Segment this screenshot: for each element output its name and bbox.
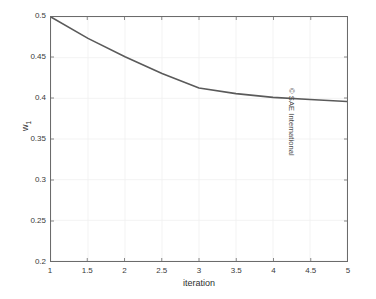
y-axis-label: w1 <box>20 106 32 146</box>
x-tick-label: 2 <box>122 267 126 275</box>
y-tick-label: 0.4 <box>14 94 46 102</box>
x-tick-label: 4 <box>271 267 275 275</box>
y-axis-label-text: w <box>20 124 30 131</box>
x-tick-label: 4.5 <box>305 267 316 275</box>
x-axis-label: iteration <box>50 278 348 288</box>
y-tick-label: 0.2 <box>14 258 46 266</box>
y-tick-label: 0.25 <box>14 217 46 225</box>
y-axis-label-subscript: 1 <box>25 121 32 125</box>
x-tick-label: 5 <box>346 267 350 275</box>
x-tick-label: 1 <box>48 267 52 275</box>
copyright-notice: © SAE International <box>287 88 296 218</box>
y-tick-label: 0.5 <box>14 12 46 20</box>
x-tick-label: 3 <box>197 267 201 275</box>
y-tick-label: 0.3 <box>14 176 46 184</box>
chart-figure: 0.20.250.30.350.40.450.5 11.522.533.544.… <box>0 0 376 299</box>
x-tick-label: 2.5 <box>156 267 167 275</box>
x-tick-label: 3.5 <box>231 267 242 275</box>
x-tick-label: 1.5 <box>82 267 93 275</box>
y-tick-label: 0.45 <box>14 53 46 61</box>
